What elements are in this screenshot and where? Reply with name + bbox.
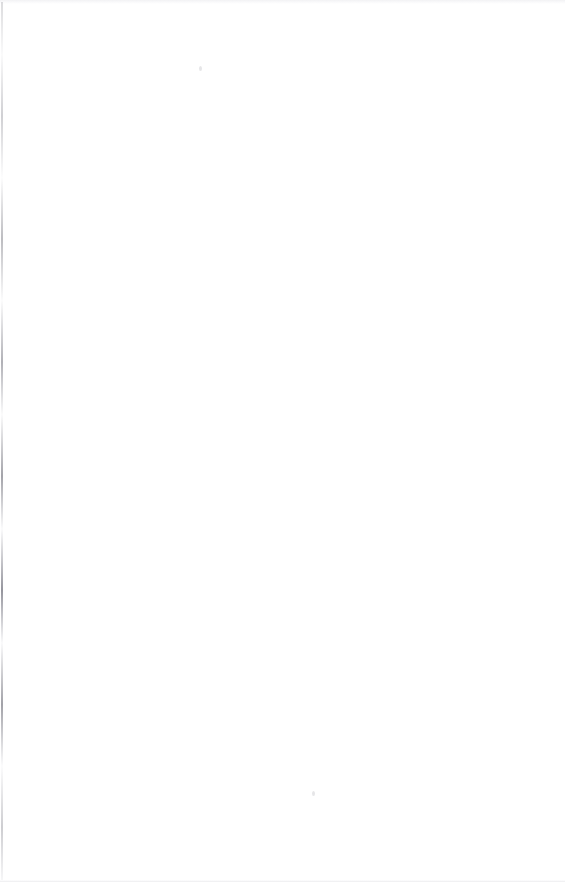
top-edge-band [0,0,565,4]
scanned-page [0,0,565,882]
dust-speck-icon [312,791,315,796]
page-blank-area [0,0,565,882]
right-gutter-void [540,0,565,882]
left-edge-line [1,2,3,880]
dust-speck-icon [199,66,202,71]
